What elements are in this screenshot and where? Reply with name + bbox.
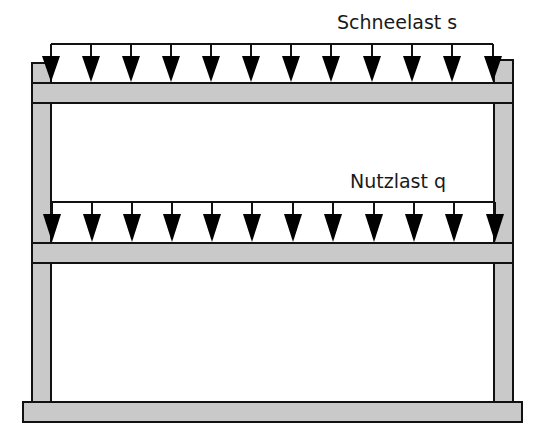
structural-frame-diagram: Schneelast sNutzlast q [0,0,544,447]
roof-beam [32,83,513,103]
down-arrow-icon [363,44,381,82]
down-arrow-icon [405,202,423,242]
down-arrow-icon [443,44,461,82]
down-arrow-icon [242,44,260,82]
down-arrow-icon [284,202,302,242]
base-slab [23,402,522,422]
down-arrow-icon [403,44,421,82]
down-arrow-icon [123,202,141,242]
down-arrow-icon [282,44,300,82]
down-arrow-icon [202,44,220,82]
down-arrow-icon [82,44,100,82]
floor-beam [32,243,513,263]
down-arrow-icon [162,44,180,82]
down-arrow-icon [163,202,181,242]
left-column [32,63,51,403]
down-arrow-icon [324,202,342,242]
load-snow: Schneelast s [42,11,502,82]
load-label-snow: Schneelast s [337,11,457,33]
load-label-live: Nutzlast q [350,170,446,192]
down-arrow-icon [445,202,463,242]
down-arrow-icon [83,202,101,242]
down-arrow-icon [243,202,261,242]
frame-members [23,60,522,422]
down-arrow-icon [365,202,383,242]
load-groups: Schneelast sNutzlast q [42,11,504,242]
load-live: Nutzlast q [43,170,504,242]
down-arrow-icon [203,202,221,242]
down-arrow-icon [322,44,340,82]
down-arrow-icon [122,44,140,82]
